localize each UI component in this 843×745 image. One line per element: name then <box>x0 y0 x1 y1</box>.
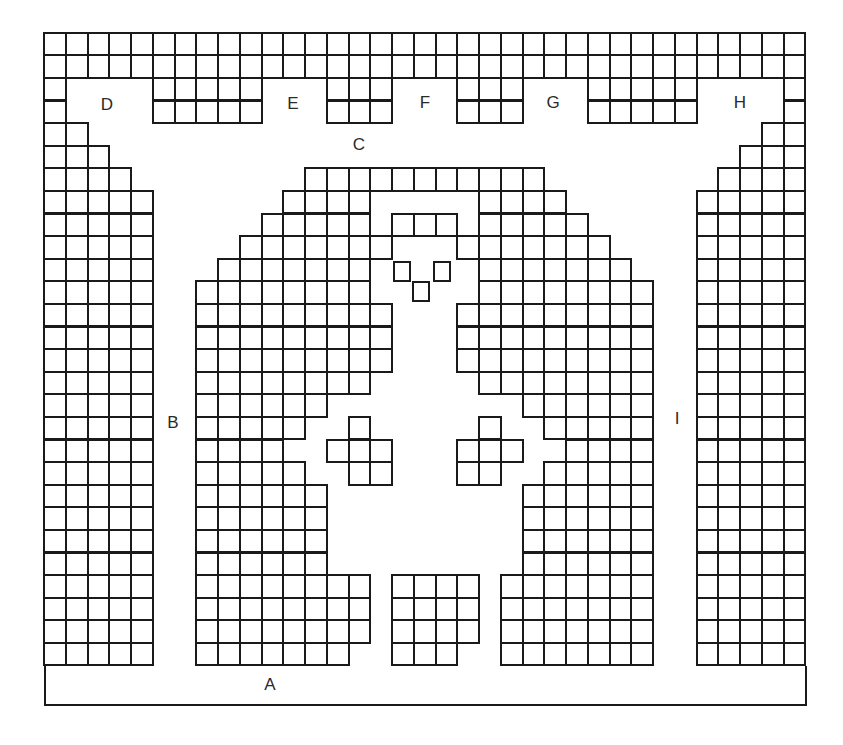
grid-cell <box>261 393 285 418</box>
grid-cell <box>195 484 219 509</box>
grid-cell <box>195 416 219 441</box>
grid-cell <box>500 235 524 260</box>
grid-cell <box>761 280 785 305</box>
grid-cell <box>108 167 132 192</box>
grid-cell <box>65 258 89 283</box>
grid-cell <box>108 280 132 305</box>
grid-cell <box>543 642 567 667</box>
grid-cell <box>478 235 502 260</box>
grid-cell <box>630 348 654 373</box>
grid-cell <box>543 416 567 441</box>
grid-cell <box>326 258 350 283</box>
grid-cell <box>783 506 807 531</box>
grid-cell <box>761 597 785 622</box>
grid-cell <box>609 552 633 577</box>
grid-cell <box>478 326 502 351</box>
grid-cell <box>65 416 89 441</box>
grid-cell <box>217 77 241 102</box>
grid-cell <box>304 167 328 192</box>
grid-cell <box>217 326 241 351</box>
grid-cell <box>609 642 633 667</box>
grid-cell <box>587 77 611 102</box>
grid-cell <box>783 552 807 577</box>
grid-cell <box>391 167 415 192</box>
grid-cell <box>326 54 350 79</box>
grid-cell <box>65 461 89 486</box>
grid-cell <box>348 574 372 599</box>
grid-cell <box>282 416 306 441</box>
grid-cell <box>326 235 350 260</box>
grid-cell <box>587 393 611 418</box>
grid-cell <box>630 552 654 577</box>
grid-cell <box>522 167 546 192</box>
grid-cell <box>783 642 807 667</box>
grid-cell <box>43 303 67 328</box>
grid-cell <box>717 303 741 328</box>
grid-cell <box>87 54 111 79</box>
grid-cell <box>565 371 589 396</box>
grid-cell <box>413 54 437 79</box>
grid-cell <box>739 642 763 667</box>
grid-cell <box>761 439 785 464</box>
grid-cell <box>609 100 633 125</box>
grid-cell <box>152 77 176 102</box>
grid-cell <box>717 213 741 238</box>
floor-bar-a <box>44 666 807 706</box>
grid-cell <box>543 303 567 328</box>
grid-cell <box>609 258 633 283</box>
grid-cell <box>43 213 67 238</box>
label-f: F <box>420 94 430 111</box>
grid-cell <box>282 393 306 418</box>
grid-cell <box>65 235 89 260</box>
grid-cell <box>587 529 611 554</box>
grid-cell <box>239 235 263 260</box>
grid-cell <box>348 100 372 125</box>
grid-cell <box>587 280 611 305</box>
right-eye-square <box>433 261 451 282</box>
grid-cell <box>413 213 437 238</box>
grid-cell <box>195 371 219 396</box>
grid-cell <box>543 348 567 373</box>
grid-cell <box>43 258 67 283</box>
grid-cell <box>413 642 437 667</box>
grid-cell <box>696 552 720 577</box>
grid-cell <box>261 32 285 57</box>
grid-cell <box>304 258 328 283</box>
grid-cell <box>565 574 589 599</box>
grid-cell <box>65 597 89 622</box>
grid-cell <box>456 619 480 644</box>
grid-cell <box>108 32 132 57</box>
grid-cell <box>478 258 502 283</box>
grid-cell <box>783 326 807 351</box>
grid-diagram: A B C D E F G H I <box>0 0 843 745</box>
grid-cell <box>565 552 589 577</box>
grid-cell <box>500 190 524 215</box>
grid-cell <box>761 326 785 351</box>
grid-cell <box>609 393 633 418</box>
grid-cell <box>239 326 263 351</box>
grid-cell <box>630 439 654 464</box>
grid-cell <box>65 552 89 577</box>
grid-cell <box>739 461 763 486</box>
grid-cell <box>630 461 654 486</box>
grid-cell <box>761 54 785 79</box>
grid-cell <box>717 484 741 509</box>
grid-cell <box>761 484 785 509</box>
grid-cell <box>282 190 306 215</box>
grid-cell <box>522 32 546 57</box>
grid-cell <box>522 280 546 305</box>
grid-cell <box>130 190 154 215</box>
grid-cell <box>261 280 285 305</box>
grid-cell <box>217 439 241 464</box>
grid-cell <box>456 303 480 328</box>
grid-cell <box>87 619 111 644</box>
grid-cell <box>130 371 154 396</box>
grid-cell <box>739 371 763 396</box>
grid-cell <box>609 371 633 396</box>
grid-cell <box>282 280 306 305</box>
grid-cell <box>87 32 111 57</box>
grid-cell <box>348 597 372 622</box>
grid-cell <box>522 235 546 260</box>
label-c: C <box>353 136 365 153</box>
grid-cell <box>609 280 633 305</box>
